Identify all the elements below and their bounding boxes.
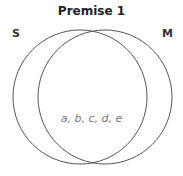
circle-m <box>38 30 172 164</box>
circle-s <box>13 30 147 164</box>
intersection-members: a, b, c, d, e <box>0 112 183 125</box>
venn-diagram <box>0 0 183 176</box>
